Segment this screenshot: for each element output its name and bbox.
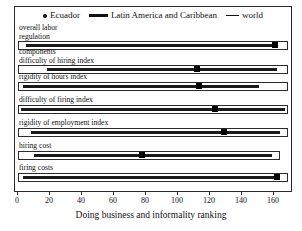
latin-america-range-bar (47, 68, 277, 71)
chart-row-label: components difficulty of hiring index (15, 48, 291, 65)
chart-row: components difficulty of hiring index (15, 48, 291, 73)
x-axis-tick-label: 160 (267, 196, 279, 205)
x-axis-tick-label: 120 (203, 196, 215, 205)
x-axis-tick (209, 192, 210, 195)
chart-row-label: overall labor regulation (15, 24, 291, 41)
chart-track (18, 173, 288, 182)
latin-america-range-bar (23, 176, 277, 179)
chart-row: rigidity of hours index (15, 73, 291, 96)
x-axis-title: Doing business and informality ranking (0, 210, 302, 221)
chart-track (18, 151, 288, 160)
chart-row-label: rigidity of employment index (15, 119, 291, 128)
latin-america-range-bar (34, 154, 272, 157)
legend-label-latin-america-and-caribbean: Latin America and Caribbean (111, 11, 217, 20)
chart-legend: Ecuador Latin America and Caribbean worl… (15, 7, 291, 24)
x-axis-tick (81, 192, 82, 195)
latin-america-range-bar (23, 85, 260, 88)
chart-row: firing costs (15, 164, 291, 186)
x-axis-tick-label: 80 (141, 196, 149, 205)
dot-marker-icon (43, 14, 47, 18)
x-axis-tick-label: 0 (15, 196, 19, 205)
chart-figure: Ecuador Latin America and Caribbean worl… (0, 0, 302, 231)
x-axis-tick (49, 192, 50, 195)
x-axis-tick (17, 192, 18, 195)
chart-row: rigidity of employment index (15, 119, 291, 142)
x-axis-tick-label: 140 (235, 196, 247, 205)
latin-america-range-bar (26, 44, 272, 47)
ecuador-point-marker (196, 83, 202, 89)
chart-track (18, 82, 288, 91)
x-axis-tick (113, 192, 114, 195)
chart-row-label: rigidity of hours index (15, 73, 291, 82)
ecuador-point-marker (221, 129, 227, 135)
chart-track (18, 128, 288, 137)
plot-area: overall labor regulationcomponents diffi… (15, 24, 291, 191)
legend-label-ecuador: Ecuador (50, 11, 80, 20)
legend-entry-ecuador: Ecuador (43, 11, 80, 20)
ecuador-point-marker (194, 66, 200, 72)
x-axis-tick-label: 20 (45, 196, 53, 205)
x-axis-tick (177, 192, 178, 195)
chart-row-label: firing costs (15, 164, 291, 173)
x-axis: 020406080100120140160 (14, 192, 292, 208)
latin-america-range-bar (31, 131, 280, 134)
legend-label-world: world (242, 11, 263, 20)
ecuador-point-marker (212, 106, 218, 112)
chart-row: difficulty of firing index (15, 96, 291, 119)
legend-entry-world: world (226, 11, 263, 20)
chart-track (18, 105, 288, 114)
x-axis-tick (241, 192, 242, 195)
x-axis-tick (273, 192, 274, 195)
x-axis-tick-label: 100 (171, 196, 183, 205)
thin-line-marker-icon (226, 15, 239, 16)
x-axis-tick-label: 60 (109, 196, 117, 205)
thick-line-marker-icon (89, 14, 108, 17)
ecuador-point-marker (139, 152, 145, 158)
chart-row-label: hiring cost (15, 142, 291, 151)
x-axis-tick (145, 192, 146, 195)
x-axis-tick-label: 40 (77, 196, 85, 205)
legend-entry-latin-america-and-caribbean: Latin America and Caribbean (89, 11, 217, 20)
chart-row-label: difficulty of firing index (15, 96, 291, 105)
chart-frame: Ecuador Latin America and Caribbean worl… (14, 6, 292, 192)
latin-america-range-bar (21, 108, 285, 111)
ecuador-point-marker (274, 174, 280, 180)
chart-row: hiring cost (15, 142, 291, 164)
chart-row: overall labor regulation (15, 24, 291, 48)
